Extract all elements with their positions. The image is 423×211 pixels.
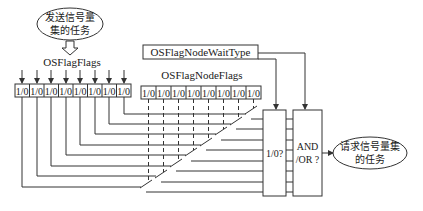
flag-cell: 1/0 xyxy=(16,86,29,97)
flag-cell: 1/0 xyxy=(88,86,101,97)
node-flag-cell: 1/0 xyxy=(232,88,245,99)
sender-task-line1: 发送信号量 xyxy=(45,11,95,23)
receiver-task-line1: 请求信号量集 xyxy=(340,140,400,152)
flag-cell: 1/0 xyxy=(103,86,116,97)
receiver-task-line2: 的任务 xyxy=(355,153,385,165)
sender-task-line2: 集的任务 xyxy=(50,24,90,36)
node-flag-cell: 1/0 xyxy=(217,88,230,99)
node-flags-cells: 1/0 1/0 1/0 1/0 1/0 1/0 1/0 1/0 xyxy=(141,86,261,99)
flag-cell: 1/0 xyxy=(117,86,130,97)
wait-type-label: OSFlagNodeWaitType xyxy=(151,46,251,58)
input-arrows xyxy=(22,70,124,83)
wait-type-connectors xyxy=(258,53,305,109)
flag-cell: 1/0 xyxy=(45,86,58,97)
receiver-task-node: 请求信号量集 的任务 xyxy=(333,137,407,169)
node-flag-cell: 1/0 xyxy=(247,88,260,99)
node-flag-cell: 1/0 xyxy=(172,88,185,99)
diagonal-break-segments xyxy=(140,106,257,188)
flag-cell: 1/0 xyxy=(74,86,87,97)
logic-line1: AND xyxy=(297,141,319,152)
logic-line2: /OR ? xyxy=(296,154,320,165)
flag-group-label: OSFlagFlags xyxy=(43,56,100,68)
hollow-arrow-down-icon xyxy=(62,41,78,55)
flag-group-cells: 1/0 1/0 1/0 1/0 1/0 1/0 1/0 1/0 xyxy=(15,84,131,97)
node-flag-cell: 1/0 xyxy=(187,88,200,99)
node-flag-cell: 1/0 xyxy=(157,88,170,99)
node-flag-cell: 1/0 xyxy=(142,88,155,99)
node-flags-label: OSFlagNodeFlags xyxy=(161,69,242,81)
flag-cell: 1/0 xyxy=(59,86,72,97)
flag-cell: 1/0 xyxy=(30,86,43,97)
node-flag-cell: 1/0 xyxy=(202,88,215,99)
bit-compare-box: 1/0? xyxy=(263,110,286,196)
flag-output-lines xyxy=(22,97,246,187)
flag-group-diagram: 发送信号量 集的任务 OSFlagFlags 1/0 1/0 1/0 1/0 1… xyxy=(0,0,423,211)
box-connectors xyxy=(286,119,293,192)
logic-box: AND /OR ? xyxy=(293,110,322,196)
sender-task-node: 发送信号量 集的任务 xyxy=(37,8,103,40)
wait-type-node: OSFlagNodeWaitType xyxy=(143,45,258,59)
bit-compare-label: 1/0? xyxy=(266,148,284,159)
